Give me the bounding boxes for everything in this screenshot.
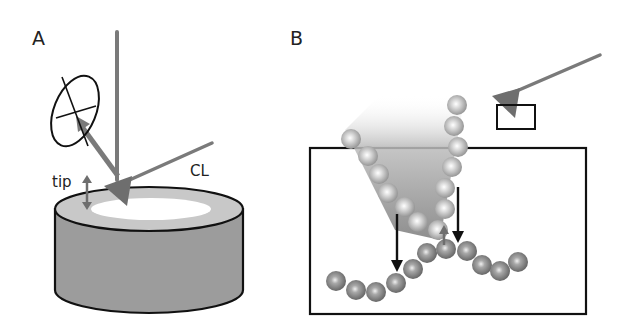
bead (436, 239, 456, 259)
cantilever-label: CL (190, 162, 209, 180)
photodetector-icon (42, 69, 109, 153)
bead (366, 282, 386, 302)
bead (369, 164, 389, 184)
bead (341, 129, 361, 149)
panel-a-label: A (32, 27, 45, 49)
bead (447, 95, 467, 115)
bead (435, 199, 455, 219)
bead (508, 252, 528, 272)
bead (435, 178, 455, 198)
bead (490, 261, 510, 281)
bead (358, 146, 378, 166)
reflected-beam (80, 124, 118, 176)
panel-b-label: B (290, 27, 303, 49)
bead (442, 157, 462, 177)
bead (472, 255, 492, 275)
bead (417, 243, 437, 263)
bead (386, 273, 406, 293)
panel-a: A CL tip (32, 27, 243, 313)
bead (326, 271, 346, 291)
inset-cantilever-icon (492, 55, 600, 129)
sample-center-region (91, 198, 211, 220)
bead (403, 259, 423, 279)
bead (378, 183, 398, 203)
panel-b: B (290, 27, 600, 314)
bead (444, 116, 464, 136)
deposit-arrow-right-icon (452, 187, 464, 243)
sample-cylinder (55, 187, 243, 313)
afm-schematic-figure: A CL tip B (0, 0, 624, 334)
surface-polymer-chain (326, 239, 528, 302)
bead (457, 241, 477, 261)
tip-label: tip (52, 173, 72, 191)
bead (448, 137, 468, 157)
bead (346, 280, 366, 300)
bead (408, 212, 428, 232)
